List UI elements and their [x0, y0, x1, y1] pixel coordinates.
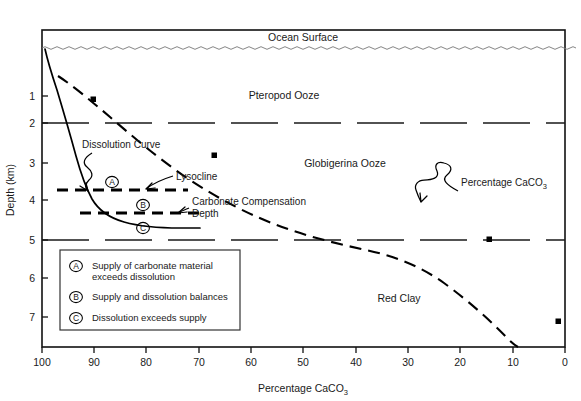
legend-a-text-line1: Supply of carbonate material	[92, 260, 213, 271]
legend-b-text: Supply and dissolution balances	[92, 291, 228, 302]
x-tick-label: 80	[140, 356, 152, 368]
y-tick-label: 3	[29, 157, 35, 169]
legend-a-text-line2: exceeds dissolution	[92, 271, 175, 282]
lysocline-label: Lysocline	[176, 171, 218, 182]
data-point-marker	[91, 97, 97, 103]
x-tick-label: 20	[454, 356, 466, 368]
y-tick-label: 4	[29, 194, 35, 206]
marker-a-letter: A	[109, 177, 115, 187]
legend-c-text: Dissolution exceeds supply	[92, 312, 207, 323]
figure-canvas: Dissolution Curve Lysocline Carbonate Co…	[0, 0, 581, 401]
y-tick-label: 1	[29, 90, 35, 102]
data-point-marker	[556, 319, 562, 325]
x-tick-label: 40	[350, 356, 362, 368]
y-tick-label: 6	[29, 272, 35, 284]
ccd-label-line1: Carbonate Compensation	[192, 196, 306, 207]
y-tick-label: 5	[29, 234, 35, 246]
marker-c-letter: C	[140, 223, 146, 233]
x-tick-label: 100	[33, 356, 51, 368]
dissolution-curve-label: Dissolution Curve	[82, 139, 161, 150]
data-point-marker	[212, 153, 218, 159]
carbonate-dissolution-chart: Dissolution Curve Lysocline Carbonate Co…	[0, 0, 581, 401]
zone-label-globigerina-ooze: Globigerina Ooze	[304, 157, 386, 169]
zone-label-red-clay: Red Clay	[377, 292, 421, 304]
zone-label-pteropod-ooze: Pteropod Ooze	[249, 89, 320, 101]
marker-b-letter: B	[140, 200, 146, 210]
legend-c-letter: C	[73, 313, 79, 323]
zone-label-ocean-surface: Ocean Surface	[268, 31, 338, 43]
y-tick-label: 7	[29, 311, 35, 323]
ccd-label-line2: Depth	[192, 208, 219, 219]
legend-entry-b: B Supply and dissolution balances	[70, 291, 228, 303]
data-point-marker	[487, 237, 493, 243]
y-tick-label: 2	[29, 117, 35, 129]
x-tick-label: 30	[402, 356, 414, 368]
y-axis-title: Depth (km)	[4, 164, 16, 216]
legend-a-letter: A	[73, 261, 79, 271]
x-tick-label: 90	[88, 356, 100, 368]
x-tick-label: 10	[507, 356, 519, 368]
legend-box: A Supply of carbonate material exceeds d…	[60, 250, 240, 330]
x-tick-label: 50	[297, 356, 309, 368]
x-tick-label: 0	[562, 356, 568, 368]
legend-b-letter: B	[73, 292, 79, 302]
x-tick-label: 70	[193, 356, 205, 368]
x-tick-label: 60	[245, 356, 257, 368]
